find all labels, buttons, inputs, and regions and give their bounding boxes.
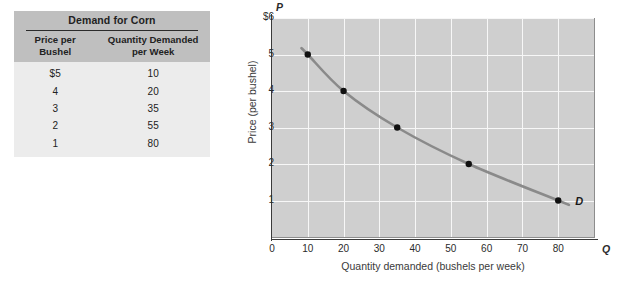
data-point-marker (305, 51, 311, 57)
table-title-row: Demand for Corn (14, 11, 210, 29)
demand-curve-line (301, 48, 568, 205)
table-row: 2 55 (14, 117, 210, 134)
table-row: 1 80 (14, 135, 210, 152)
cell-quantity: 35 (96, 100, 210, 117)
cell-quantity: 10 (96, 65, 210, 82)
cell-quantity: 20 (96, 82, 210, 99)
demand-curve-chart: P Q Price (per bushel) Quantity demanded… (232, 0, 622, 283)
cell-quantity: 80 (96, 135, 210, 152)
data-point-marker (340, 88, 346, 94)
curve-label-demand: D (575, 195, 583, 207)
cell-quantity: 55 (96, 117, 210, 134)
data-point-marker (555, 197, 561, 203)
data-point-marker (394, 124, 400, 130)
column-header-quantity-line2: per Week (132, 46, 174, 57)
column-header-price-line1: Price per (35, 34, 76, 45)
cell-price: 4 (14, 82, 96, 99)
column-header-price-line2: Bushel (39, 46, 71, 57)
cell-price: $5 (14, 65, 96, 82)
column-header-quantity-line1: Quantity Demanded (108, 34, 199, 45)
table-title: Demand for Corn (14, 11, 210, 29)
table-row: 3 35 (14, 100, 210, 117)
column-header-price: Price per Bushel (14, 31, 96, 62)
cell-price: 1 (14, 135, 96, 152)
table-row: 4 20 (14, 82, 210, 99)
column-header-quantity: Quantity Demanded per Week (96, 31, 210, 62)
data-point-marker (466, 161, 472, 167)
demand-curve-svg (232, 0, 622, 283)
cell-price: 2 (14, 117, 96, 134)
demand-for-corn-table: Demand for Corn Price per Bushel Quantit… (14, 11, 210, 157)
table-header-row: Price per Bushel Quantity Demanded per W… (14, 31, 210, 62)
cell-price: 3 (14, 100, 96, 117)
table-row: $5 10 (14, 65, 210, 82)
table-body-spacer-bottom (14, 152, 210, 157)
